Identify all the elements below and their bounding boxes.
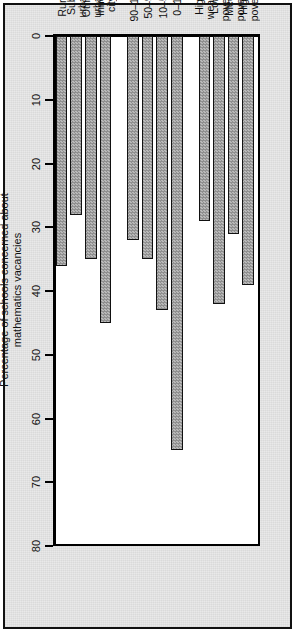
bar (127, 36, 139, 240)
value-axis-tick-label: 80 (30, 531, 42, 561)
bar (157, 36, 169, 310)
category-tick-label: Rural (57, 0, 68, 30)
value-axis-tick-label: 30 (30, 212, 42, 242)
category-tick-label: Sub- urban (66, 0, 87, 30)
value-axis-tick (45, 99, 53, 101)
figure-page: 01020304050607080 High povertyMed. pover… (0, 0, 295, 632)
bar (100, 36, 112, 323)
value-axis-tick (45, 481, 53, 483)
value-axis-tick (45, 545, 53, 547)
bar (243, 36, 255, 285)
bar (199, 36, 211, 221)
value-axis-tick (45, 418, 53, 420)
bar (171, 36, 183, 450)
bar (71, 36, 83, 215)
value-axis-tick-label: 50 (30, 340, 42, 370)
value-axis-tick (45, 35, 53, 37)
value-axis-tick-label: 40 (30, 276, 42, 306)
bar (56, 36, 68, 266)
bar (213, 36, 225, 304)
category-tick-label: 10–50 (157, 0, 168, 30)
bar-chart: 01020304050607080 High povertyMed. pover… (22, 16, 274, 616)
bar (142, 36, 154, 259)
category-tick-label: 0–10 (172, 0, 183, 30)
value-axis-tick (45, 354, 53, 356)
value-axis-tick-label: 60 (30, 404, 42, 434)
value-axis-tick-label: 20 (30, 149, 42, 179)
rotated-figure-wrapper: 01020304050607080 High povertyMed. pover… (0, 0, 295, 632)
category-tick-label: 90–100 (128, 0, 139, 30)
value-axis-tick-label: 10 (30, 85, 42, 115)
value-axis-tick (45, 226, 53, 228)
category-tick-label: High wealth (194, 0, 215, 30)
value-axis-tick-label: 70 (30, 467, 42, 497)
bar (85, 36, 97, 259)
value-axis-tick (45, 163, 53, 165)
value-axis-tick (45, 290, 53, 292)
bar (228, 36, 240, 234)
value-axis-tick-label: 0 (30, 21, 42, 51)
value-axis-title: Percentage of schools concerned about ma… (0, 140, 24, 440)
category-tick-label: 50–90 (143, 0, 154, 30)
